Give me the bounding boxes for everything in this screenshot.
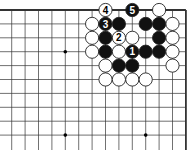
black-stone: 3 [99, 17, 112, 30]
star-point [64, 50, 68, 54]
white-stone: 2 [112, 31, 125, 44]
black-stone [139, 17, 152, 30]
white-stone [139, 73, 152, 86]
black-stone [153, 45, 166, 58]
white-stone [86, 45, 99, 58]
move-number: 5 [130, 5, 136, 16]
white-stone [153, 3, 166, 16]
white-stone [99, 59, 112, 72]
move-number: 4 [103, 5, 109, 16]
white-stone [166, 31, 179, 44]
white-stone [86, 17, 99, 30]
move-number: 3 [103, 19, 109, 30]
white-stone [166, 59, 179, 72]
black-stone: 1 [126, 45, 139, 58]
white-stone [126, 73, 139, 86]
stones: 45321 [86, 3, 180, 86]
white-stone [166, 17, 179, 30]
white-stone [99, 73, 112, 86]
white-stone [166, 45, 179, 58]
white-stone [112, 73, 125, 86]
black-stone [99, 45, 112, 58]
white-stone [112, 45, 125, 58]
black-stone [99, 31, 112, 44]
star-point [64, 133, 68, 137]
black-stone [153, 17, 166, 30]
white-stone: 4 [99, 3, 112, 16]
star-point [144, 133, 148, 137]
move-number: 2 [116, 32, 122, 43]
black-stone [112, 59, 125, 72]
black-stone: 5 [126, 3, 139, 16]
white-stone [126, 31, 139, 44]
move-number: 1 [130, 46, 136, 57]
black-stone [139, 45, 152, 58]
go-board: 45321 [0, 0, 192, 150]
black-stone [153, 31, 166, 44]
black-stone [126, 59, 139, 72]
white-stone [86, 31, 99, 44]
black-stone [112, 17, 125, 30]
